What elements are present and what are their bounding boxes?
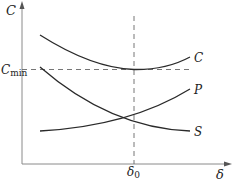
curve-c: [40, 35, 190, 70]
curve-s: [40, 67, 190, 131]
y-axis-arrow-icon: [20, 1, 25, 9]
curve-p: [40, 89, 190, 131]
curve-c-label: C: [194, 51, 203, 65]
curve-s-label: S: [194, 125, 202, 139]
curve-p-label: P: [193, 83, 203, 97]
delta0-label: δ0: [127, 165, 140, 180]
cmin-label: Cmin: [1, 63, 28, 78]
y-axis-label: C: [6, 3, 16, 18]
x-axis-label: δ: [216, 167, 224, 182]
x-axis-arrow-icon: [224, 162, 232, 167]
cost-diagram: C δ Cmin δ0 C P S: [0, 0, 235, 183]
